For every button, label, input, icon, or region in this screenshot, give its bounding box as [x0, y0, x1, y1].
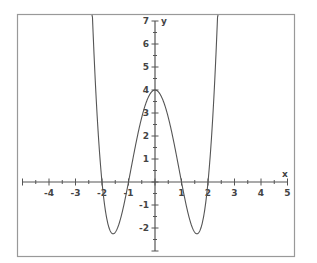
x-tick-label: -1: [124, 188, 134, 198]
x-tick-label: -4: [44, 188, 54, 198]
x-tick-label: 2: [205, 188, 211, 198]
y-axis-label: y: [161, 16, 167, 26]
function-plot: -4-3-2-112345-2-11234567 x y: [0, 0, 317, 263]
y-tick-label: -2: [139, 223, 149, 233]
x-tick-label: 4: [258, 188, 264, 198]
x-tick-label: -2: [97, 188, 107, 198]
y-tick-label: 6: [143, 39, 149, 49]
y-tick-label: 5: [143, 62, 149, 72]
x-axis-label: x: [282, 169, 288, 179]
y-tick-label: 2: [143, 131, 149, 141]
x-tick-label: 5: [284, 188, 290, 198]
y-tick-label: 4: [143, 85, 149, 95]
x-tick-label: 3: [231, 188, 237, 198]
y-tick-label: -1: [139, 200, 149, 210]
y-tick-label: 1: [143, 154, 149, 164]
x-tick-label: -3: [71, 188, 81, 198]
y-tick-label: 7: [143, 16, 149, 26]
